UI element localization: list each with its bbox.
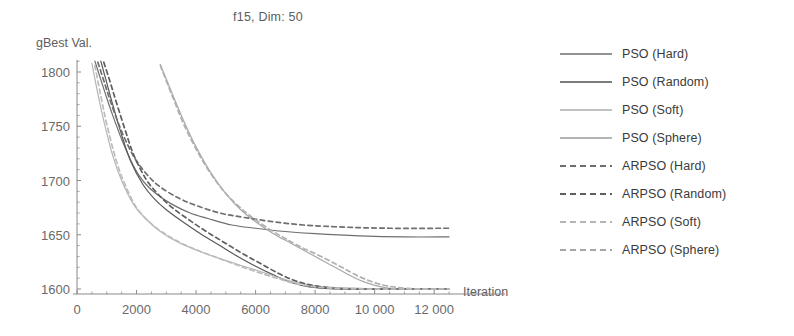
- legend-item[interactable]: ARPSO (Soft): [560, 208, 794, 236]
- legend-label: ARPSO (Sphere): [622, 243, 719, 257]
- series-layer: [92, 61, 449, 289]
- dashed-line-icon: [560, 216, 612, 228]
- solid-line-icon: [560, 76, 612, 88]
- legend-label: PSO (Sphere): [622, 131, 702, 145]
- y-tick-label: 1800: [41, 65, 70, 80]
- x-tick-label: 4000: [182, 302, 211, 317]
- series-line: [104, 62, 449, 289]
- solid-line-icon: [560, 132, 612, 144]
- y-tick-label: 1700: [41, 174, 70, 189]
- dashed-line-icon: [560, 244, 612, 256]
- legend-item[interactable]: ARPSO (Sphere): [560, 236, 794, 264]
- legend-item[interactable]: PSO (Random): [560, 68, 794, 96]
- x-tick-label: 6000: [241, 302, 270, 317]
- series-line: [160, 65, 449, 289]
- convergence-chart-figure: f15, Dim: 50 gBest Val. Iteration 020004…: [0, 0, 794, 336]
- chart-legend: PSO (Hard)PSO (Random)PSO (Soft)PSO (Sph…: [560, 40, 794, 264]
- legend-label: PSO (Soft): [622, 103, 683, 117]
- dashed-line-icon: [560, 160, 612, 172]
- legend-item[interactable]: ARPSO (Hard): [560, 152, 794, 180]
- series-line: [101, 61, 449, 289]
- solid-line-icon: [560, 48, 612, 60]
- legend-item[interactable]: PSO (Soft): [560, 96, 794, 124]
- solid-line-icon: [560, 104, 612, 116]
- series-line: [98, 62, 449, 228]
- series-line: [92, 63, 449, 289]
- legend-label: ARPSO (Soft): [622, 215, 701, 229]
- dashed-line-icon: [560, 188, 612, 200]
- series-line: [160, 64, 449, 289]
- x-tick-label: 12 000: [414, 302, 454, 317]
- y-tick-label: 1750: [41, 119, 70, 134]
- series-line: [95, 61, 449, 237]
- legend-label: PSO (Random): [622, 75, 709, 89]
- x-tick-label: 2000: [122, 302, 151, 317]
- y-tick-label: 1650: [41, 228, 70, 243]
- x-tick-label: 10 000: [355, 302, 395, 317]
- x-tick-label: 0: [73, 302, 80, 317]
- legend-item[interactable]: PSO (Hard): [560, 40, 794, 68]
- y-tick-label: 1600: [41, 282, 70, 297]
- series-line: [95, 65, 449, 289]
- legend-label: ARPSO (Random): [622, 187, 726, 201]
- x-tick-label: 8000: [301, 302, 330, 317]
- legend-label: PSO (Hard): [622, 47, 688, 61]
- legend-item[interactable]: ARPSO (Random): [560, 180, 794, 208]
- legend-item[interactable]: PSO (Sphere): [560, 124, 794, 152]
- legend-label: ARPSO (Hard): [622, 159, 706, 173]
